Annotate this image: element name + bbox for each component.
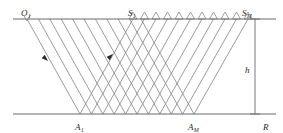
downgoing-ray [27,19,80,114]
downgoing-ray [50,19,103,114]
receiver-triangle [187,12,195,19]
receiver-triangle [164,12,172,19]
label-reflection-last-main: A [188,122,194,132]
label-origin: O1 [21,3,31,19]
label-reflection-first-main: A [75,122,81,132]
label-source-last-main: S [242,8,247,18]
label-source-first: S1 [128,3,136,19]
label-source-last: SM [242,3,252,19]
label-source-first-main: S [128,8,133,18]
ray-direction-arrow-group [42,54,113,61]
ray-path-figure: O1 S1 SM A1 AM h R [0,0,283,133]
label-source-last-sub: M [247,13,252,19]
upgoing-ray [183,19,237,114]
label-reflection-last-sub: M [194,127,199,133]
receiver-marker-group [129,12,252,19]
receiver-triangle [141,12,149,19]
downgoing-ray [38,19,91,114]
label-reflector-main: R [263,122,269,132]
receiver-triangle [221,12,229,19]
receiver-triangle [175,12,183,19]
label-depth-main: h [245,65,250,75]
label-reflection-first: A1 [75,117,84,133]
ray-diagram-canvas [0,0,283,133]
label-reflection-first-sub: 1 [81,127,84,133]
label-depth: h [245,60,250,76]
receiver-triangle [233,12,241,19]
label-source-first-sub: 1 [133,13,136,19]
label-reflection-last: AM [188,117,199,133]
receiver-triangle [152,12,160,19]
upgoing-ray [171,19,225,114]
upgoing-ray [194,19,248,114]
label-origin-main: O [21,8,28,18]
label-reflector: R [263,117,269,133]
receiver-triangle [210,12,218,19]
upgoing-ray-group [80,19,248,114]
receiver-triangle [198,12,206,19]
label-origin-sub: 1 [28,13,31,19]
